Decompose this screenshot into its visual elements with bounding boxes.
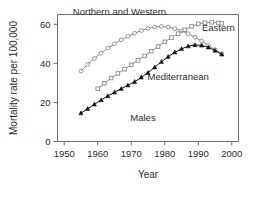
data-point-open-square [103,81,107,85]
data-point-open-square [116,72,120,76]
x-tick-label: 1950 [54,148,75,159]
x-tick-label: 1980 [154,148,175,159]
annotation-males: Males [130,112,156,123]
data-point-open-circle [126,34,130,38]
chart-figure: 0204060 195019601970198019902000 Mortali… [0,0,257,213]
y-tick-label: 60 [40,19,51,30]
data-point-open-circle [139,29,143,33]
y-axis-title: Mortality rate per 100,000 [8,21,19,135]
data-point-open-circle [160,25,164,29]
data-point-open-circle [153,25,157,29]
data-point-open-square [183,28,187,32]
x-tick-label: 1970 [121,148,142,159]
data-point-open-circle [200,39,204,43]
y-tick-label: 40 [40,58,51,69]
data-point-open-circle [99,51,103,55]
x-tick-label: 2000 [221,148,242,159]
annotation-eastern: Eastern [202,22,235,33]
data-point-open-circle [173,27,177,31]
data-point-open-circle [119,38,123,42]
data-point-open-circle [79,69,83,73]
data-point-open-square [143,54,147,58]
data-point-open-circle [106,46,110,50]
data-point-open-circle [113,42,117,46]
mortality-rate-line-chart: 0204060 195019601970198019902000 Mortali… [0,0,257,213]
data-point-open-square [156,45,160,49]
annotation-mediterranean: Mediterranean [148,71,209,82]
data-point-open-square [163,40,167,44]
data-point-open-circle [166,25,170,29]
data-point-open-square [170,36,174,40]
data-point-open-square [176,32,180,36]
data-point-open-square [136,59,140,63]
data-point-open-square [129,63,133,67]
data-point-open-square [150,49,154,53]
x-tick-label: 1960 [87,148,108,159]
x-axis-title: Year [138,169,159,180]
data-point-open-square [190,25,194,29]
y-tick-label: 0 [45,136,50,147]
annotation-northern-and-western: Northern and Western [73,6,166,17]
x-tick-label: 1990 [188,148,209,159]
data-point-open-circle [133,31,137,35]
data-point-open-circle [86,62,90,66]
data-point-open-square [96,87,100,91]
data-point-open-circle [193,35,197,39]
data-point-open-circle [146,26,150,30]
data-point-open-square [123,67,127,71]
data-point-open-circle [186,32,190,36]
data-point-open-circle [92,57,96,61]
y-tick-label: 20 [40,97,51,108]
data-point-open-square [109,76,113,80]
data-point-open-square [196,22,200,26]
